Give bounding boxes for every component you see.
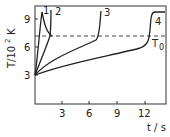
xtick-6: 6 bbox=[86, 108, 92, 119]
t0-label: T bbox=[151, 38, 159, 49]
svg-text:K: K bbox=[6, 28, 17, 35]
curve-2 bbox=[35, 10, 51, 75]
curve-4-label: 4 bbox=[155, 16, 161, 27]
curve-2-label: 2 bbox=[55, 6, 61, 17]
t0-subscript: 0 bbox=[159, 43, 164, 52]
svg-text:T/10: T/10 bbox=[6, 46, 17, 69]
curve-3-label: 3 bbox=[104, 7, 110, 18]
xtick-3: 3 bbox=[59, 108, 65, 119]
chart: 3 6 9 3 6 9 12 t / s T/10 2 K 1 2 3 4 T … bbox=[0, 0, 170, 137]
curves bbox=[35, 10, 165, 75]
xtick-9: 9 bbox=[114, 108, 120, 119]
ytick-3: 3 bbox=[24, 70, 30, 81]
y-axis-label: T/10 2 K bbox=[4, 28, 17, 69]
ytick-9: 9 bbox=[24, 14, 30, 25]
curve-1-label: 1 bbox=[43, 5, 49, 16]
svg-text:2: 2 bbox=[4, 39, 12, 43]
xtick-12: 12 bbox=[138, 108, 151, 119]
x-axis-label: t / s bbox=[147, 122, 166, 133]
curve-1 bbox=[35, 12, 52, 75]
ytick-6: 6 bbox=[24, 42, 30, 53]
